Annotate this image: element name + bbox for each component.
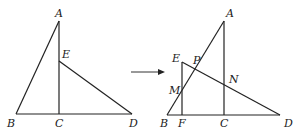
label-P: P: [192, 54, 201, 67]
label-E: E: [171, 52, 180, 65]
label-E: E: [61, 48, 70, 61]
label-N: N: [228, 73, 239, 86]
label-D: D: [283, 117, 293, 130]
label-D: D: [128, 117, 138, 130]
label-B: B: [159, 117, 168, 130]
figure-left: A B C D E: [6, 7, 138, 130]
label-B: B: [6, 117, 15, 130]
label-M: M: [168, 84, 181, 97]
geometry-diagram: A B C D E A B F C D E P N M: [0, 0, 303, 137]
label-A: A: [225, 7, 234, 20]
label-C: C: [220, 117, 229, 130]
label-C: C: [55, 117, 64, 130]
label-A: A: [54, 7, 63, 20]
segment-ED: [59, 61, 132, 114]
segment-ED: [182, 62, 280, 115]
segment-AB: [167, 21, 224, 115]
transform-arrow-icon: [131, 69, 165, 75]
figure-right: A B F C D E P N M: [159, 7, 293, 130]
label-F: F: [177, 117, 186, 130]
segment-AB: [16, 21, 59, 114]
